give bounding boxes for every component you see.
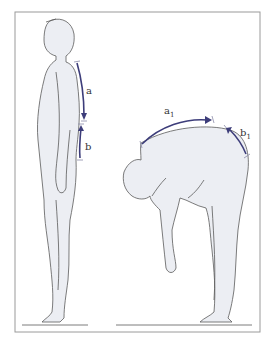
label-a: a — [86, 85, 92, 96]
label-b: b — [85, 141, 91, 152]
diagram-canvas: a b a1 b1 — [0, 0, 267, 340]
bending-figure — [116, 127, 252, 325]
label-a1: a1 — [164, 105, 174, 119]
